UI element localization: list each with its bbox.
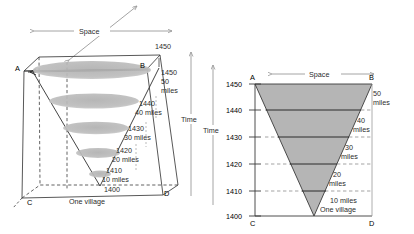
top-year-left: 1450 — [155, 42, 171, 51]
level-year-1430: 1430 — [128, 124, 144, 133]
y-tick-1450: 1450 — [226, 80, 242, 89]
band-label-50-line2: miles — [373, 98, 390, 107]
corner-a-left: A — [15, 64, 20, 73]
band-label-10-line1: 10 miles — [330, 196, 357, 205]
corner-b-left: B — [140, 61, 145, 70]
figure-svg: Space — [0, 0, 414, 234]
level-distance-1450: 50 — [161, 77, 169, 86]
corner-d-right: D — [369, 219, 374, 228]
corner-a-right: A — [250, 73, 255, 82]
corner-c-left: C — [27, 198, 33, 207]
y-tick-1440: 1440 — [226, 106, 242, 115]
band-label-30-line1: 30 — [345, 143, 353, 152]
level-distance-1420: 20 miles — [112, 155, 139, 164]
level-year-1450: 1450 — [161, 68, 177, 77]
space-axis-arrow-left — [34, 25, 172, 36]
base-year-left: 1400 — [104, 185, 120, 194]
level-year-1410: 1410 — [106, 166, 122, 175]
cone-ellipse-1450 — [33, 61, 151, 79]
band-label-30-line2: miles — [341, 152, 358, 161]
left-panel: Space — [13, 6, 202, 208]
level-unit-1450: miles — [161, 86, 178, 95]
right-panel: Space — [202, 65, 390, 228]
band-label-40-line2: miles — [353, 125, 370, 134]
level-distance-1430: 30 miles — [124, 133, 151, 142]
band-label-20-line1: 20 — [333, 170, 341, 179]
time-label-left: Time — [181, 115, 197, 124]
level-year-1440: 1440 — [139, 99, 155, 108]
diffusion-cone-figure: Space — [0, 0, 414, 234]
band-label-50-line1: 50 — [373, 89, 381, 98]
base-caption-left: One village — [69, 197, 105, 206]
y-tick-1400: 1400 — [226, 212, 242, 221]
space-label-left: Space — [79, 27, 99, 36]
level-distance-1440: 40 miles — [135, 108, 162, 117]
y-tick-1430: 1430 — [226, 133, 242, 142]
y-tick-1410: 1410 — [226, 187, 242, 196]
cone-ellipse-1440 — [49, 94, 139, 109]
corner-c-right: C — [250, 219, 256, 228]
y-tick-1420: 1420 — [226, 160, 242, 169]
corner-b-right: B — [369, 73, 374, 82]
cone-ellipse-1430 — [63, 122, 129, 134]
band-label-40-line1: 40 — [357, 116, 365, 125]
time-axis-arrow-left — [180, 52, 202, 196]
time-axis-arrow-right — [202, 65, 224, 205]
level-year-1420: 1420 — [116, 146, 132, 155]
time-label-right: Time — [203, 126, 219, 135]
space-label-right: Space — [309, 70, 329, 79]
band-label-10-line2: One village — [320, 205, 356, 214]
corner-d-left: D — [164, 189, 169, 198]
level-distance-1410: 10 miles — [102, 175, 129, 184]
band-label-20-line2: miles — [329, 179, 346, 188]
